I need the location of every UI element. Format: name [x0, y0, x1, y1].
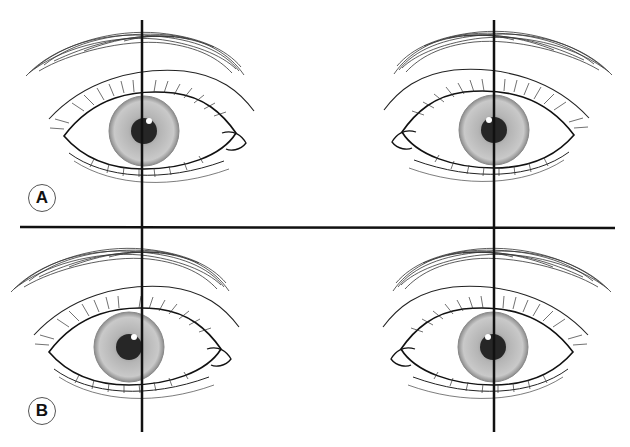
- panel-a-right-eye: [384, 31, 612, 181]
- panel-b-right-eye: [383, 248, 611, 398]
- eye-alignment-figure: [0, 0, 630, 447]
- panel-label-a: A: [28, 184, 56, 212]
- panel-a-left-eye: [26, 32, 254, 182]
- panel-label-b: B: [28, 397, 56, 425]
- panel-b-left-eye: [11, 248, 239, 398]
- horizontal-divider-line: [20, 227, 615, 228]
